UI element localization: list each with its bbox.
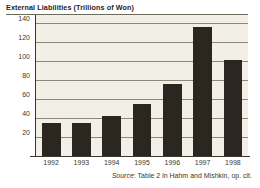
x-axis-tick-label: 1997 [188,159,218,166]
y-axis-tick-label: 60 [2,91,30,98]
x-axis-line [30,156,250,157]
y-axis-line [35,15,36,157]
bar [72,123,91,156]
bar [193,27,212,156]
x-axis-tick-label: 1995 [127,159,157,166]
y-axis-tick-label: 40 [2,110,30,117]
x-axis-tick-label: 1996 [157,159,187,166]
y-axis-tick-label: 120 [2,34,30,41]
chart-figure: External Liabilities (Trillions of Won) … [0,0,260,188]
bar [133,104,152,156]
gridline [36,42,248,43]
y-axis-tick-label: 80 [2,72,30,79]
x-axis-tick-label: 1993 [66,159,96,166]
y-axis-tick-label: 20 [2,129,30,136]
gridline [36,23,248,24]
bar [163,84,182,156]
y-axis-tick-label: 140 [2,15,30,22]
gridline [36,80,248,81]
bar [224,60,243,156]
bar [42,123,61,156]
source-label: Source [112,172,134,179]
y-axis-tick-label: 100 [2,53,30,60]
gridline [36,99,248,100]
bar [102,116,121,156]
gridline [36,61,248,62]
source-text: Table 2 in Hahm and Mishkin, op. cit. [138,172,252,179]
page-title: External Liabilities (Trillions of Won) [6,3,250,12]
source-note: Source: Table 2 in Hahm and Mishkin, op.… [112,172,252,179]
x-axis-tick-label: 1994 [97,159,127,166]
plot-area [36,15,248,156]
x-axis-tick-label: 1998 [218,159,248,166]
x-axis-tick-label: 1992 [36,159,66,166]
